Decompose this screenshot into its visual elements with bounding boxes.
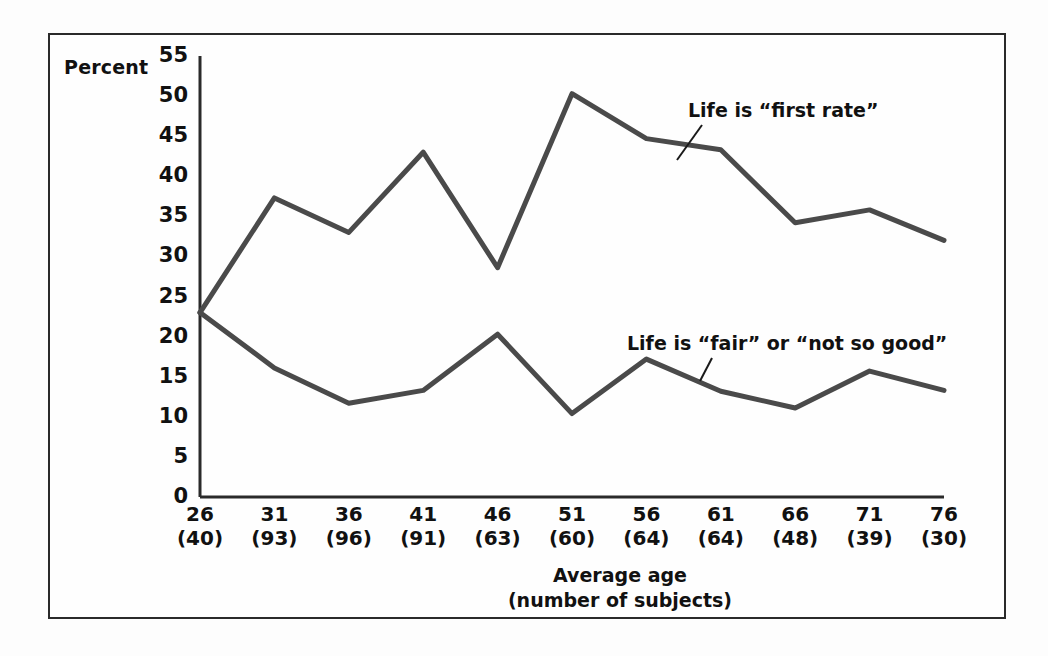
- y-axis-tick-20: 20: [148, 326, 188, 347]
- x-axis-tick-age: 41: [380, 503, 466, 527]
- x-axis-tick-age: 76: [901, 503, 987, 527]
- y-axis-tick-5: 5: [148, 446, 188, 467]
- x-axis-title: Average age (number of subjects): [400, 563, 840, 612]
- x-axis-tick-count: (64): [678, 527, 764, 551]
- x-axis-tick-76: 76(30): [901, 503, 987, 550]
- y-axis-tick-10: 10: [148, 406, 188, 427]
- x-axis-tick-46: 46(63): [455, 503, 541, 550]
- x-axis-tick-age: 51: [529, 503, 615, 527]
- annotation-first-rate: Life is “first rate”: [688, 99, 878, 121]
- x-axis-title-line2: (number of subjects): [400, 588, 840, 613]
- x-axis-tick-age: 66: [752, 503, 838, 527]
- x-axis-tick-age: 61: [678, 503, 764, 527]
- x-axis-tick-61: 61(64): [678, 503, 764, 550]
- x-axis-tick-56: 56(64): [603, 503, 689, 550]
- x-axis-tick-31: 31(93): [231, 503, 317, 550]
- annotation-fair-or-not-so-good: Life is “fair” or “not so good”: [627, 332, 947, 354]
- x-axis-tick-count: (91): [380, 527, 466, 551]
- x-axis-tick-age: 26: [157, 503, 243, 527]
- x-axis-tick-71: 71(39): [827, 503, 913, 550]
- x-axis-tick-51: 51(60): [529, 503, 615, 550]
- y-axis-tick-15: 15: [148, 366, 188, 387]
- y-axis-title: Percent: [64, 56, 148, 78]
- x-axis-tick-count: (60): [529, 527, 615, 551]
- y-axis-tick-35: 35: [148, 205, 188, 226]
- x-axis-tick-count: (63): [455, 527, 541, 551]
- x-axis-title-line1: Average age: [400, 563, 840, 588]
- y-axis-tick-25: 25: [148, 286, 188, 307]
- x-axis-tick-26: 26(40): [157, 503, 243, 550]
- y-axis-tick-30: 30: [148, 245, 188, 266]
- y-axis-tick-40: 40: [148, 165, 188, 186]
- x-axis-tick-age: 36: [306, 503, 392, 527]
- x-axis-tick-count: (96): [306, 527, 392, 551]
- x-axis-tick-36: 36(96): [306, 503, 392, 550]
- figure-container: Percent 5550454035302520151050 26(40)31(…: [0, 0, 1048, 656]
- x-axis-tick-count: (30): [901, 527, 987, 551]
- x-axis-tick-66: 66(48): [752, 503, 838, 550]
- x-axis-tick-41: 41(91): [380, 503, 466, 550]
- x-axis-tick-age: 56: [603, 503, 689, 527]
- y-axis-tick-50: 50: [148, 85, 188, 106]
- x-axis-tick-age: 71: [827, 503, 913, 527]
- x-axis-tick-count: (64): [603, 527, 689, 551]
- x-axis-tick-count: (48): [752, 527, 838, 551]
- x-axis-tick-count: (93): [231, 527, 317, 551]
- x-axis-tick-age: 46: [455, 503, 541, 527]
- y-axis-tick-55: 55: [148, 45, 188, 66]
- x-axis-tick-count: (39): [827, 527, 913, 551]
- y-axis-tick-45: 45: [148, 125, 188, 146]
- x-axis-tick-age: 31: [231, 503, 317, 527]
- x-axis-tick-count: (40): [157, 527, 243, 551]
